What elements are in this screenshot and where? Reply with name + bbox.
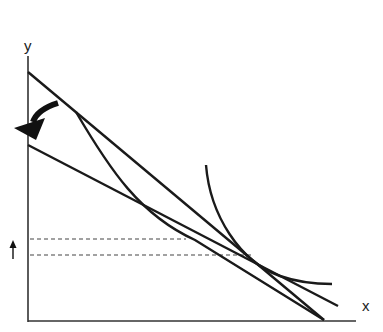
- diagram-canvas: y x: [0, 0, 383, 332]
- budget-line-rotated: [28, 145, 338, 306]
- y-axis-label: y: [24, 38, 32, 53]
- diagram-svg: [0, 0, 383, 332]
- x-axis-label: x: [362, 298, 370, 313]
- budget-line-original: [28, 72, 324, 320]
- increase-arrow-icon: [10, 240, 17, 259]
- rotation-arrow-icon: [14, 103, 58, 140]
- indifference-curve: [206, 165, 332, 284]
